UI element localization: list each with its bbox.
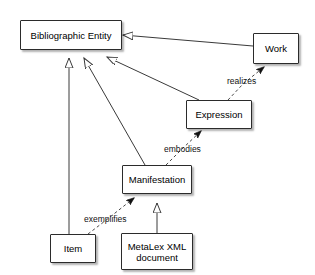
- node-label-expression: Expression: [196, 109, 243, 120]
- edge-label-exemplifies: exemplifies: [84, 214, 127, 224]
- node-work[interactable]: Work: [253, 33, 299, 64]
- node-bibliographic-entity[interactable]: Bibliographic Entity: [20, 20, 122, 50]
- node-label-manifestation: Manifestation: [129, 174, 186, 185]
- node-item[interactable]: Item: [50, 234, 96, 263]
- edge-work-to-bibliographic-entity: [123, 35, 253, 46]
- edge-label-realizes: realizes: [227, 76, 256, 86]
- node-label-work: Work: [265, 43, 287, 54]
- node-label-metalex-xml-document: MetaLex XML document: [128, 241, 187, 263]
- edge-manifestation-to-bibliographic-entity: [84, 58, 145, 165]
- node-manifestation[interactable]: Manifestation: [122, 165, 192, 194]
- node-expression[interactable]: Expression: [186, 100, 252, 129]
- edge-label-embodies: embodies: [164, 144, 201, 154]
- edge-expression-to-bibliographic-entity: [107, 57, 199, 100]
- node-label-item: Item: [64, 243, 82, 254]
- node-label-bibliographic-entity: Bibliographic Entity: [31, 30, 112, 41]
- node-metalex-xml-document[interactable]: MetaLex XML document: [121, 233, 193, 270]
- uml-class-diagram: Bibliographic Entity Work Expression Man…: [0, 0, 315, 275]
